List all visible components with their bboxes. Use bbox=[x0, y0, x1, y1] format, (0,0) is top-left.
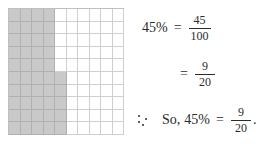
equation-line-1: 45% = 45 100 bbox=[142, 14, 212, 42]
grid-cell-shaded bbox=[44, 110, 56, 123]
grid-cell-empty bbox=[67, 85, 79, 98]
fraction-numerator: 45 bbox=[192, 14, 208, 27]
grid-cell-empty bbox=[101, 110, 113, 123]
grid-cell-shaded bbox=[55, 110, 67, 123]
grid-cell-shaded bbox=[32, 110, 44, 123]
fraction-45-over-100: 45 100 bbox=[189, 14, 211, 42]
fraction-numerator: 9 bbox=[200, 60, 210, 73]
grid-cell-empty bbox=[101, 97, 113, 110]
grid-cell-shaded bbox=[55, 122, 67, 135]
grid-cell-empty bbox=[90, 122, 102, 135]
grid-cell-empty bbox=[90, 47, 102, 60]
grid-cell-shaded bbox=[44, 72, 56, 85]
grid-cell-empty bbox=[101, 72, 113, 85]
percent-value-line1: 45% bbox=[142, 21, 168, 35]
grid-cell-shaded bbox=[32, 59, 44, 72]
grid-cell-empty bbox=[90, 72, 102, 85]
grid-panel bbox=[8, 8, 124, 135]
fraction-denominator: 20 bbox=[197, 76, 213, 89]
grid-cell-shaded bbox=[21, 34, 33, 47]
grid-cell-shaded bbox=[21, 9, 33, 22]
grid-cell-empty bbox=[113, 9, 125, 22]
grid-cell-empty bbox=[67, 59, 79, 72]
period-mark: . bbox=[253, 113, 257, 127]
grid-cell-shaded bbox=[21, 110, 33, 123]
percent-to-fraction-figure: 45% = 45 100 = 9 20 So, 45% = 9 bbox=[0, 0, 261, 147]
grid-cell-empty bbox=[90, 97, 102, 110]
grid-cell-shaded bbox=[21, 97, 33, 110]
grid-cell-shaded bbox=[55, 85, 67, 98]
grid-cell-shaded bbox=[55, 72, 67, 85]
grid-cell-shaded bbox=[32, 97, 44, 110]
grid-cell-empty bbox=[78, 59, 90, 72]
grid-cell-shaded bbox=[55, 97, 67, 110]
grid-cell-shaded bbox=[44, 97, 56, 110]
percent-grid bbox=[8, 8, 124, 135]
grid-cell-empty bbox=[90, 9, 102, 22]
grid-cell-empty bbox=[67, 110, 79, 123]
grid-cell-shaded bbox=[21, 22, 33, 35]
grid-cell-empty bbox=[67, 34, 79, 47]
grid-cell-empty bbox=[67, 9, 79, 22]
grid-cell-empty bbox=[78, 72, 90, 85]
grid-cell-shaded bbox=[9, 34, 21, 47]
grid-cell-empty bbox=[55, 59, 67, 72]
grid-cell-empty bbox=[101, 34, 113, 47]
grid-cell-shaded bbox=[9, 47, 21, 60]
grid-cell-empty bbox=[55, 47, 67, 60]
grid-cell-shaded bbox=[21, 59, 33, 72]
grid-cell-empty bbox=[78, 34, 90, 47]
grid-cell-empty bbox=[113, 122, 125, 135]
grid-cell-empty bbox=[90, 59, 102, 72]
grid-cell-empty bbox=[90, 85, 102, 98]
grid-cell-empty bbox=[67, 122, 79, 135]
percent-value-line3: 45% bbox=[184, 113, 210, 127]
grid-cell-empty bbox=[90, 110, 102, 123]
fraction-denominator: 100 bbox=[189, 30, 211, 43]
grid-cell-empty bbox=[101, 85, 113, 98]
grid-cell-empty bbox=[90, 34, 102, 47]
equals-sign-line1: = bbox=[174, 21, 182, 35]
grid-cell-shaded bbox=[9, 59, 21, 72]
grid-cell-shaded bbox=[9, 22, 21, 35]
grid-cell-empty bbox=[101, 122, 113, 135]
grid-cell-empty bbox=[113, 97, 125, 110]
fraction-9-over-20-result: 9 20 bbox=[231, 106, 251, 134]
grid-cell-shaded bbox=[9, 72, 21, 85]
grid-cell-shaded bbox=[32, 9, 44, 22]
fraction-numerator: 9 bbox=[236, 106, 246, 119]
grid-cell-empty bbox=[67, 97, 79, 110]
grid-cell-shaded bbox=[32, 47, 44, 60]
grid-cell-empty bbox=[55, 22, 67, 35]
grid-cell-empty bbox=[101, 9, 113, 22]
conclusion-line: So, 45% = 9 20 . bbox=[136, 106, 256, 134]
grid-cell-empty bbox=[67, 22, 79, 35]
grid-cell-empty bbox=[113, 72, 125, 85]
grid-cell-shaded bbox=[44, 59, 56, 72]
grid-cell-shaded bbox=[9, 9, 21, 22]
grid-cell-shaded bbox=[32, 72, 44, 85]
grid-cell-shaded bbox=[21, 72, 33, 85]
grid-cell-empty bbox=[90, 22, 102, 35]
grid-cell-empty bbox=[101, 59, 113, 72]
math-panel: 45% = 45 100 = 9 20 So, 45% = 9 bbox=[134, 0, 261, 147]
grid-cell-empty bbox=[113, 85, 125, 98]
grid-cell-empty bbox=[78, 122, 90, 135]
grid-cell-empty bbox=[113, 22, 125, 35]
so-label: So, bbox=[162, 113, 180, 127]
grid-cell-shaded bbox=[9, 85, 21, 98]
grid-cell-empty bbox=[78, 110, 90, 123]
grid-cell-shaded bbox=[32, 122, 44, 135]
grid-cell-shaded bbox=[32, 85, 44, 98]
grid-cell-empty bbox=[78, 97, 90, 110]
grid-cell-shaded bbox=[44, 22, 56, 35]
grid-cell-shaded bbox=[9, 97, 21, 110]
grid-cell-shaded bbox=[44, 47, 56, 60]
fraction-denominator: 20 bbox=[233, 122, 249, 135]
grid-cell-empty bbox=[78, 9, 90, 22]
grid-cell-empty bbox=[113, 110, 125, 123]
grid-cell-empty bbox=[55, 34, 67, 47]
grid-cell-empty bbox=[101, 22, 113, 35]
grid-cell-shaded bbox=[32, 34, 44, 47]
grid-cell-shaded bbox=[21, 85, 33, 98]
